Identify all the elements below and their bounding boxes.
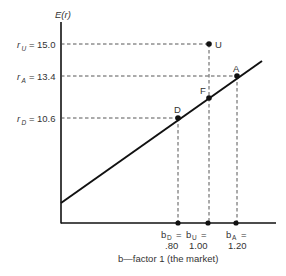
svg-text:F: F bbox=[200, 85, 206, 96]
svg-text:b: b bbox=[226, 229, 231, 240]
svg-text:r: r bbox=[17, 113, 21, 124]
point-A: A bbox=[233, 63, 240, 79]
point-U: U bbox=[206, 39, 222, 50]
svg-text:10.6: 10.6 bbox=[37, 113, 56, 124]
svg-text:U: U bbox=[22, 45, 27, 52]
svg-text:U: U bbox=[215, 39, 222, 50]
y-tick-rD: r D = 10.6 bbox=[17, 113, 56, 126]
guide-lines bbox=[61, 44, 237, 223]
svg-text:r: r bbox=[17, 39, 21, 50]
svg-text:b: b bbox=[161, 229, 166, 240]
x-axis-title: b—factor 1 (the market) bbox=[118, 253, 218, 264]
svg-text:=: = bbox=[241, 229, 247, 240]
svg-text:=: = bbox=[201, 229, 207, 240]
svg-text:r: r bbox=[17, 71, 21, 82]
y-axis-title: E(r) bbox=[55, 9, 71, 20]
x-tick-dot-U bbox=[205, 220, 210, 225]
y-tick-rU: r U = 15.0 bbox=[17, 39, 56, 52]
svg-text:D: D bbox=[174, 104, 181, 115]
x-tick-bU: b U = 1.00 bbox=[186, 229, 208, 251]
svg-text:1.20: 1.20 bbox=[228, 240, 247, 251]
svg-text:13.4: 13.4 bbox=[37, 71, 56, 82]
chart: E(r) r U = 15.0 r A = 13.4 r D = 10.6 D … bbox=[0, 0, 286, 276]
point-F: F bbox=[200, 85, 212, 101]
svg-text:.80: .80 bbox=[165, 240, 178, 251]
svg-text:b: b bbox=[186, 229, 191, 240]
svg-text:A: A bbox=[21, 77, 26, 84]
svg-text:=: = bbox=[29, 113, 35, 124]
svg-text:=: = bbox=[176, 229, 182, 240]
svg-text:A: A bbox=[233, 63, 240, 74]
x-tick-dot-A bbox=[233, 220, 238, 225]
svg-text:=: = bbox=[29, 39, 35, 50]
svg-text:15.0: 15.0 bbox=[37, 39, 56, 50]
sml-line bbox=[61, 61, 262, 203]
x-tick-bD: b D = .80 bbox=[161, 229, 182, 251]
y-tick-rA: r A = 13.4 bbox=[17, 71, 56, 84]
svg-text:1.00: 1.00 bbox=[189, 240, 208, 251]
x-tick-bA: b A = 1.20 bbox=[226, 229, 247, 251]
svg-text:=: = bbox=[29, 71, 35, 82]
svg-text:D: D bbox=[22, 119, 27, 126]
x-tick-dot-D bbox=[175, 220, 180, 225]
